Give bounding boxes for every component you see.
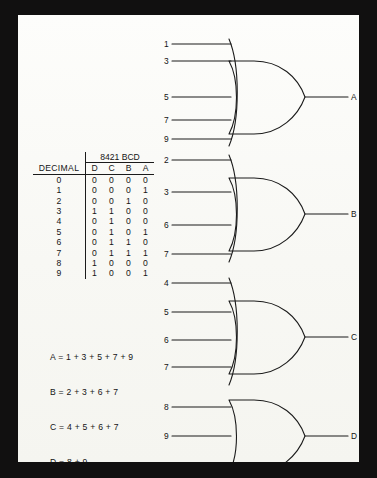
input-label-9: 9 [164,134,169,144]
input-label-7c: 7 [164,362,169,372]
input-label-4: 4 [164,278,169,288]
input-label-3: 3 [164,56,169,66]
input-label-5c: 5 [164,307,169,317]
gate-a-body [229,61,305,134]
diagram-canvas: 8421 BCD DECIMAL D C B A 0 0 0 0 0 [18,15,359,462]
input-label-7: 7 [164,115,169,125]
gate-d-body [229,400,305,462]
output-label-a: A [351,92,357,102]
circuit-svg [18,15,359,462]
or-gate-d [172,400,348,462]
or-gate-a [172,39,348,146]
gate-b-body [229,178,305,251]
input-label-8: 8 [164,402,169,412]
input-label-6c: 6 [164,335,169,345]
circuit-area: 1 3 5 7 9 2 3 6 7 4 5 6 7 8 9 A B C D [18,15,359,462]
or-gate-b [172,155,348,262]
output-label-d: D [351,431,357,441]
or-gate-c [172,278,348,385]
input-label-5: 5 [164,92,169,102]
input-label-7b: 7 [164,249,169,259]
output-label-c: C [351,332,357,342]
input-label-2: 2 [164,155,169,165]
gate-c-body [229,301,305,374]
input-label-6: 6 [164,220,169,230]
output-label-b: B [351,209,357,219]
input-label-9d: 9 [164,431,169,441]
input-label-1: 1 [164,39,169,49]
input-label-3b: 3 [164,187,169,197]
diagram-page: 8421 BCD DECIMAL D C B A 0 0 0 0 0 [0,0,377,478]
